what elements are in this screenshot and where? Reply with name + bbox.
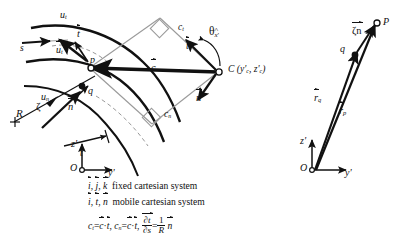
label-c-t: ct: [178, 23, 184, 33]
c-t-closure-line: [92, 18, 160, 66]
figure-root: ut s ut t un n p q ζ R c ct cn t n θx' C…: [0, 0, 408, 245]
caption-vec-i-fixed: i: [88, 180, 91, 191]
caption-line-2: i, t, n mobile cartesian system: [88, 196, 388, 212]
caption-sep-2a: ,: [91, 196, 93, 207]
caption-line-1: i, j, k fixed cartesian system: [88, 180, 388, 196]
label-center-c: C (y'c, z'c): [228, 64, 265, 75]
label-s: s: [20, 44, 24, 54]
label-right-y-axis: y': [345, 168, 352, 178]
point-c-marker: [216, 69, 222, 75]
right-angle-marker-top: [150, 19, 168, 37]
label-radius-R: R: [16, 108, 23, 119]
label-u-t-inner: ut: [56, 44, 63, 56]
point-q-marker: [79, 83, 86, 90]
label-point-P: P: [383, 17, 389, 27]
label-theta: θx': [209, 26, 219, 39]
right-point-q-marker: [352, 52, 359, 59]
eq-c-vec-2: c: [127, 220, 131, 231]
u-t-vector-arrow: [60, 40, 87, 61]
theta-angle-arc: [204, 40, 220, 66]
label-t-distance: t: [80, 148, 83, 158]
caption-vec-j-fixed: j: [95, 180, 98, 191]
label-u-t-upper: ut: [60, 10, 67, 21]
point-p-marker: [88, 65, 94, 71]
eq-t-vec-2: t: [134, 220, 137, 231]
label-c-vector: c: [151, 62, 156, 74]
caption-sep-2b: ,: [98, 196, 100, 207]
label-u-n: un: [41, 92, 49, 103]
r-p-vector: [316, 25, 375, 170]
label-zeta-n: ζn: [352, 25, 362, 37]
eq-comma-2: ,: [137, 220, 139, 231]
eq-cn: cn: [114, 220, 121, 231]
label-r-q: rq: [314, 92, 321, 104]
label-right-point-q: q: [340, 44, 345, 54]
label-left-z-axis: z': [71, 139, 77, 149]
caption-sep-1a: ,: [91, 180, 93, 191]
label-t-unit-at-c: t: [186, 40, 189, 52]
r-q-vector: [315, 52, 357, 170]
label-right-z-axis: z': [300, 136, 306, 146]
eq-deriv-denominator: ∂s: [142, 226, 152, 235]
caption-vec-k-fixed: k: [103, 180, 107, 191]
label-n-unit-left: n: [68, 101, 73, 113]
eq-c-vec-1: c: [99, 220, 103, 231]
c-n-component-line: [152, 72, 218, 124]
streamline-outer: [31, 26, 180, 122]
label-point-p: p: [90, 55, 95, 65]
eq-comma-1: ,: [109, 220, 111, 231]
eq-one-over-R: 1R: [157, 216, 165, 236]
caption-vec-t-mobile: t: [95, 196, 98, 207]
caption-vec-n-mobile: n: [103, 196, 108, 207]
caption-text-mobile: mobile cartesian system: [113, 196, 205, 207]
eq-t-vec-1: t: [107, 220, 110, 231]
caption-line-3-equations: ct=c·t, cn=c·t, ∂t∂s=1R n: [88, 212, 388, 238]
left-origin-marker: [80, 168, 85, 173]
eq-deriv-numerator: ∂t: [142, 216, 152, 226]
c-n-closure-line: [92, 70, 152, 124]
label-right-origin: O: [300, 163, 307, 173]
eq-n-vec: n: [168, 220, 173, 231]
right-origin-marker: [310, 168, 315, 173]
label-r-p: rp: [339, 105, 346, 117]
label-left-origin: O: [70, 163, 77, 173]
label-t-unit-left: t: [77, 28, 80, 40]
label-left-y-axis: y': [108, 168, 115, 178]
label-c-n: cn: [164, 110, 171, 120]
point-P-marker: [374, 20, 380, 26]
caption-vec-i-mobile: i: [88, 196, 91, 207]
caption-text-fixed: fixed cartesian system: [112, 180, 197, 191]
label-point-q: q: [88, 86, 93, 96]
label-n-unit-at-c: n: [196, 92, 201, 104]
eq-derivative-fraction: ∂t∂s: [142, 216, 152, 236]
caption-sep-1b: ,: [98, 180, 100, 191]
s-direction-arrow: [22, 41, 50, 43]
caption-block: i, j, k fixed cartesian system i, t, n m…: [88, 180, 388, 238]
eq-frac-denominator: R: [157, 226, 165, 235]
label-zeta: ζ: [36, 101, 41, 112]
